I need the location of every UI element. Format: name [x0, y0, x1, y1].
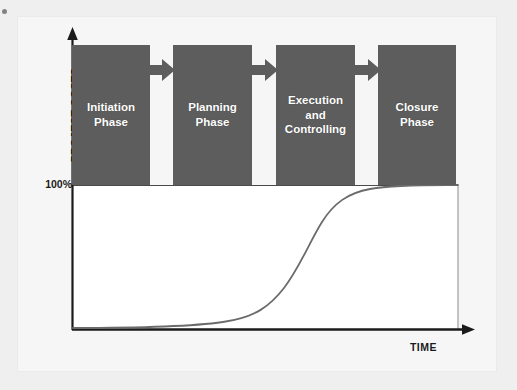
- phase-label-planning: Planning Phase: [188, 100, 237, 129]
- phase-label-line: Phase: [188, 115, 237, 130]
- phase-label-execution-and-controlling: Execution and Controlling: [285, 93, 346, 137]
- phase-box-closure[interactable]: Closure Phase: [378, 45, 456, 185]
- y-axis-arrowhead: [67, 27, 78, 40]
- arrow-right-icon: [148, 57, 176, 83]
- phase-label-line: Controlling: [285, 122, 346, 137]
- phase-label-line: Planning: [188, 100, 237, 115]
- figure-panel: PROJECT COSTS 100% TIME Initiation Phase…: [18, 17, 496, 371]
- phase-label-line: Execution: [285, 93, 346, 108]
- scan-speck-artifact: [2, 9, 7, 14]
- arrow-right-icon: [251, 57, 279, 83]
- phase-label-line: Phase: [87, 115, 135, 130]
- phase-box-initiation[interactable]: Initiation Phase: [72, 45, 150, 185]
- phase-label-line: Closure: [396, 100, 439, 115]
- plot-background: [73, 185, 459, 330]
- phase-box-planning[interactable]: Planning Phase: [173, 45, 252, 185]
- x-axis-title: TIME: [410, 341, 437, 353]
- y-axis-tick-100-percent: 100%: [30, 178, 72, 190]
- phase-label-line: Phase: [396, 115, 439, 130]
- phase-box-execution-and-controlling[interactable]: Execution and Controlling: [276, 45, 355, 185]
- chart-area: PROJECT COSTS 100% TIME Initiation Phase…: [18, 17, 496, 371]
- figure-stage: PROJECT COSTS 100% TIME Initiation Phase…: [0, 0, 517, 390]
- phase-label-line: and: [285, 108, 346, 123]
- arrow-right-icon: [354, 57, 382, 83]
- phase-label-line: Initiation: [87, 100, 135, 115]
- phase-label-initiation: Initiation Phase: [87, 100, 135, 129]
- x-axis-arrowhead: [462, 324, 475, 335]
- phase-label-closure: Closure Phase: [396, 100, 439, 129]
